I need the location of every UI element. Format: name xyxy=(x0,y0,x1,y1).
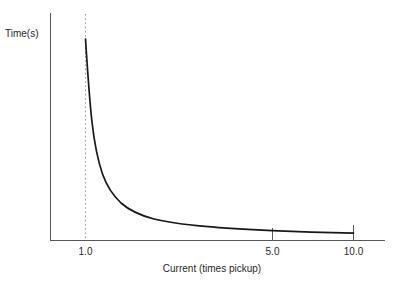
x-tick-label-1: 1.0 xyxy=(79,246,93,257)
x-tick-label-10: 10.0 xyxy=(344,246,364,257)
chart-figure: Time(s) 1.0 5.0 10.0 Current (times pick… xyxy=(0,0,395,283)
x-tick-label-5: 5.0 xyxy=(266,246,280,257)
y-axis-label: Time(s) xyxy=(5,28,39,39)
curve-inverse-time-characteristic xyxy=(86,39,354,233)
x-axis-label: Current (times pickup) xyxy=(163,263,261,274)
chart-canvas: Time(s) 1.0 5.0 10.0 Current (times pick… xyxy=(0,0,395,283)
